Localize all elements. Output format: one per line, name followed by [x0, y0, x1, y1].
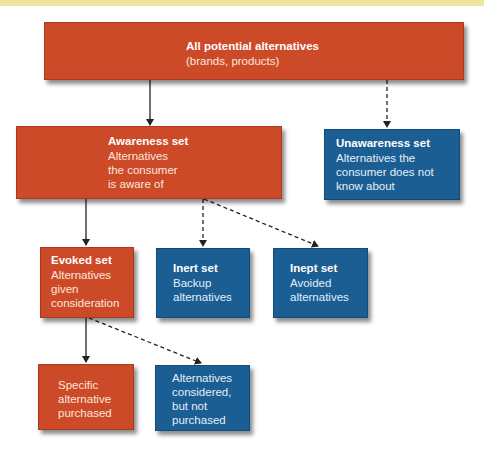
node-title: All potential alternatives [186, 39, 463, 53]
node-awareness-set: Awareness set Alternatives the consumer … [16, 126, 282, 199]
node-body: Alternatives the consumer does not know … [336, 151, 459, 193]
node-body: Specific alternative purchased [58, 378, 133, 420]
node-specific-alternative-purchased: Specific alternative purchased [38, 364, 134, 430]
node-title: Unawareness set [336, 136, 459, 150]
node-body: Avoided alternatives [290, 276, 367, 304]
node-alternatives-not-purchased: Alternatives considered, but not purchas… [155, 365, 250, 431]
node-body: Backup alternatives [173, 276, 249, 304]
node-title: Inert set [173, 261, 249, 275]
node-inert-set: Inert set Backup alternatives [156, 248, 250, 318]
node-inept-set: Inept set Avoided alternatives [273, 248, 368, 318]
node-title: Evoked set [51, 253, 133, 267]
node-body: Alternatives considered, but not purchas… [172, 371, 249, 427]
node-all-potential-alternatives: All potential alternatives (brands, prod… [44, 22, 464, 80]
node-title: Awareness set [108, 134, 281, 148]
node-body: Alternatives the consumer is aware of [108, 149, 281, 191]
node-body: (brands, products) [186, 54, 463, 68]
node-unawareness-set: Unawareness set Alternatives the consume… [324, 129, 460, 200]
node-evoked-set: Evoked set Alternatives given considerat… [40, 247, 134, 318]
edge-awareness-to-inept [204, 199, 318, 246]
node-body: Alternatives given consideration [51, 268, 133, 310]
node-title: Inept set [290, 261, 367, 275]
edge-evoked-to-not-purchased [89, 318, 201, 363]
